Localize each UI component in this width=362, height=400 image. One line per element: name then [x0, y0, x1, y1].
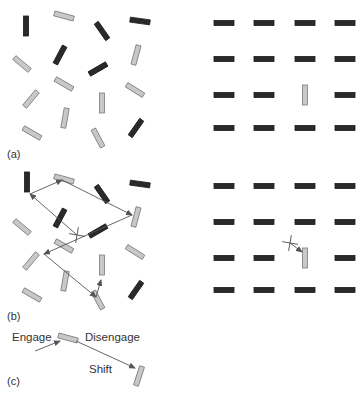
panel-b-feature-popout — [214, 184, 355, 293]
distractor-bar — [295, 220, 315, 225]
distractor-bar — [214, 184, 234, 189]
distractor-bar — [335, 184, 355, 189]
light-bar — [13, 219, 32, 236]
light-bar — [54, 239, 74, 253]
distractor-bar — [295, 57, 315, 62]
dark-bar — [88, 224, 108, 238]
distractor-bar — [214, 21, 234, 26]
distractor-bar — [335, 93, 355, 98]
dark-bar — [24, 16, 29, 36]
dark-bar — [94, 21, 110, 40]
scanpath-arrow — [30, 194, 77, 235]
panel-a-feature-display — [214, 21, 355, 131]
distractor-bar — [295, 288, 315, 293]
distractor-bar — [254, 256, 274, 261]
panel-label-c: (c) — [7, 375, 20, 387]
scanpath-arrow — [30, 180, 62, 194]
panel-label-b: (b) — [7, 310, 20, 322]
light-bar — [100, 93, 105, 113]
distractor-bar — [254, 184, 274, 189]
distractor-bar — [335, 256, 355, 261]
panel-b-conjunction-scanpath — [13, 172, 151, 310]
distractor-bar — [214, 126, 234, 131]
light-bar — [22, 126, 42, 140]
distractor-bar — [214, 256, 234, 261]
panel-a-conjunction-display — [13, 11, 151, 148]
distractor-bar — [254, 57, 274, 62]
light-bar — [125, 83, 145, 98]
distractor-bar — [295, 126, 315, 131]
distractor-bar — [254, 288, 274, 293]
distractor-bar — [254, 93, 274, 98]
distractor-bar — [295, 21, 315, 26]
dark-bar — [128, 118, 144, 137]
distractor-bar — [254, 220, 274, 225]
light-bar — [61, 108, 69, 129]
light-bar — [91, 128, 105, 148]
distractor-bar — [335, 57, 355, 62]
light-bar — [100, 255, 105, 275]
scanpath-arrow — [44, 254, 96, 297]
light-bar — [125, 245, 145, 260]
shift-label: Shift — [89, 363, 112, 375]
target-bar — [303, 85, 308, 105]
light-bar — [131, 45, 141, 66]
distractor-bar — [254, 126, 274, 131]
light-bar — [91, 290, 105, 310]
dark-bar — [128, 280, 144, 299]
dark-bar — [88, 62, 108, 76]
distractor-bar — [335, 220, 355, 225]
distractor-bar — [214, 93, 234, 98]
distractor-bar — [214, 220, 234, 225]
panel-label-a: (a) — [7, 148, 20, 160]
fixation-cross-icon — [68, 226, 87, 245]
distractor-bar — [295, 184, 315, 189]
shift-target-bar — [134, 366, 145, 387]
light-bar — [23, 252, 40, 271]
engage-label: Engage — [12, 331, 52, 343]
dark-bar — [53, 208, 67, 228]
attention-figure: (a) (b) (c) Engage Disengage Shift — [0, 0, 362, 400]
target-bar — [303, 248, 308, 268]
dark-bar — [130, 17, 151, 25]
distractor-bar — [335, 21, 355, 26]
disengage-label: Disengage — [85, 331, 140, 343]
scanpath-arrow — [96, 280, 101, 297]
light-bar — [131, 207, 141, 228]
light-bar — [54, 11, 75, 21]
distractor-bar — [254, 21, 274, 26]
dark-bar — [130, 180, 151, 188]
light-bar — [13, 56, 32, 73]
distractor-bar — [335, 288, 355, 293]
light-bar — [54, 77, 74, 91]
engaged-bar — [58, 333, 79, 343]
light-bar — [22, 288, 42, 302]
distractor-bar — [335, 126, 355, 131]
dark-bar — [94, 184, 110, 203]
dark-bar — [53, 45, 67, 65]
figure-canvas — [0, 0, 362, 400]
distractor-bar — [214, 57, 234, 62]
dark-bar — [25, 172, 30, 192]
distractor-bar — [214, 288, 234, 293]
light-bar — [23, 90, 40, 109]
